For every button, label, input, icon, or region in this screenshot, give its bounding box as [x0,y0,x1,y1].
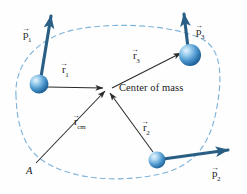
label-momentum-p1: →p1 [23,29,32,43]
label-position-r1: →r1 [62,64,69,78]
vector-arrow-accent-icon: → [131,46,139,54]
vector-arrow-accent-icon: → [141,118,149,126]
vector-arrow-accent-icon: → [22,25,30,33]
label-position-rcm: →rcm [74,116,86,130]
center-of-mass-label: Center of mass [119,83,183,94]
center-of-mass-diagram: →p1 →p2 →p3 →r1 →r2 →r3 →rcm Center of m… [0,0,247,194]
origin-point-label: A [26,166,32,177]
vector-arrow-accent-icon: → [60,60,68,68]
vector-arrow-accent-icon: → [195,22,203,30]
label-momentum-p3: →p3 [196,26,205,40]
label-position-r3: →r3 [133,50,140,64]
position-vector-r1 [47,87,103,88]
position-vector-rcm [36,91,105,163]
momentum-vector-p2 [156,150,228,160]
particle-2 [149,152,166,169]
vector-arrow-accent-icon: → [72,112,80,120]
label-position-r2: →r2 [143,122,150,136]
label-momentum-p2: →p2 [212,168,221,182]
vector-arrow-accent-icon: → [211,164,219,172]
momentum-vector-p1 [40,16,51,83]
particle-3 [179,44,201,66]
particle-1 [30,75,49,94]
